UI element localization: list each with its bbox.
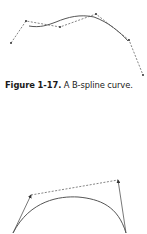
bspline-figure (10, 13, 144, 76)
bspline-curve (29, 16, 128, 41)
figure-caption: Figure 1-17. A B-spline curve. (5, 80, 133, 90)
control-polygon (11, 14, 143, 75)
figure-canvas (0, 0, 147, 234)
caption-text: A B-spline curve. (61, 80, 133, 90)
hermite-figure (13, 180, 126, 233)
tangent-connector-dashed (31, 180, 118, 195)
hermite-curve (13, 197, 126, 233)
end-tangent-arrow (118, 180, 126, 233)
caption-label: Figure 1-17. (5, 80, 61, 90)
control-points (10, 13, 144, 76)
